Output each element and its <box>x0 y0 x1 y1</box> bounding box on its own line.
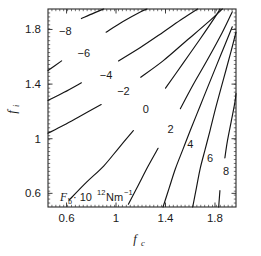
contour-plot-figure: −8−6−4−202468 0.611.41.8 0.611.41.8 f c … <box>0 0 261 256</box>
contour-label--6: −6 <box>78 47 91 59</box>
y-tick-label: 1.8 <box>25 23 41 35</box>
annotation-unit-exponent: −1 <box>124 188 133 197</box>
contour-plot-canvas: −8−6−4−202468 0.611.41.8 0.611.41.8 f c … <box>0 0 261 256</box>
y-tick-label: 1.4 <box>25 78 42 90</box>
x-tick-label: 0.6 <box>59 212 75 224</box>
contour-label--8: −8 <box>59 25 72 37</box>
x-tick-label: 1 <box>113 212 119 224</box>
x-tick-label: 1.8 <box>207 212 223 224</box>
annotation-base: F <box>59 191 68 203</box>
contour-label-4: 4 <box>187 138 193 150</box>
annotation-subscript: b <box>68 197 72 206</box>
contour-label-2: 2 <box>167 123 173 135</box>
x-tick-label: 1.4 <box>158 212 175 224</box>
annotation-mid: · 10 <box>73 191 92 203</box>
y-tick-label: 1 <box>35 133 41 145</box>
x-axis-title-subscript: c <box>141 238 145 248</box>
contour-label-6: 6 <box>207 152 213 164</box>
contour-label--2: −2 <box>117 85 130 97</box>
annotation-unit: Nm <box>106 191 123 203</box>
y-tick-label: 0.6 <box>25 187 41 199</box>
annotation-exponent: 12 <box>97 188 105 197</box>
contour-label--4: −4 <box>100 69 113 81</box>
contour-label-8: 8 <box>223 165 229 177</box>
contour-label-0: 0 <box>143 103 149 115</box>
